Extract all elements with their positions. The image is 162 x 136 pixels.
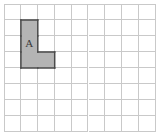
- grid-cell: [38, 4, 55, 20]
- grid-cell: [72, 84, 89, 100]
- grid-cell: [72, 4, 89, 20]
- grid-cell: [139, 20, 156, 36]
- grid-cell: [21, 116, 38, 132]
- shape-unit-square: [21, 52, 38, 68]
- grid-cell: [105, 20, 122, 36]
- grid-cell: [105, 36, 122, 52]
- grid-cell: [4, 116, 21, 132]
- grid-cell: [139, 36, 156, 52]
- grid-cell: [21, 68, 38, 84]
- grid-cell: [72, 100, 89, 116]
- grid-cell: [139, 84, 156, 100]
- grid-cell: [89, 84, 106, 100]
- grid-cell: [38, 36, 55, 52]
- grid-cell: [105, 84, 122, 100]
- grid-cell: [89, 68, 106, 84]
- grid-cell: [55, 52, 72, 68]
- grid-cell: [139, 52, 156, 68]
- grid-cell: [38, 84, 55, 100]
- grid-cell: [55, 68, 72, 84]
- grid-cell: [4, 20, 21, 36]
- grid-cell: [122, 100, 139, 116]
- shape-unit-square: [38, 52, 55, 68]
- grid-cell: [89, 4, 106, 20]
- grid-cell: [89, 116, 106, 132]
- grid-cell: [72, 36, 89, 52]
- grid-cell: [72, 20, 89, 36]
- grid-cell: [89, 36, 106, 52]
- grid-cell: [139, 4, 156, 20]
- grid-cell: [139, 68, 156, 84]
- grid-cell: [122, 68, 139, 84]
- grid-cell: [38, 116, 55, 132]
- grid-cell: [38, 68, 55, 84]
- grid-cell: [38, 100, 55, 116]
- grid-cell: [139, 116, 156, 132]
- grid-cell: [55, 100, 72, 116]
- grid-cell: [55, 36, 72, 52]
- grid-cell: [21, 4, 38, 20]
- grid-cell: [4, 52, 21, 68]
- grid-cell: [72, 52, 89, 68]
- grid-cell: [139, 100, 156, 116]
- grid-cell: [89, 52, 106, 68]
- grid-cell: [89, 20, 106, 36]
- grid-cell: [105, 116, 122, 132]
- grid-cell: [122, 20, 139, 36]
- grid-surface: A: [4, 4, 156, 132]
- grid-cell: [122, 36, 139, 52]
- grid-cell: [122, 116, 139, 132]
- grid-cell: [38, 20, 55, 36]
- grid-cell: [72, 116, 89, 132]
- shape-label: A: [21, 38, 38, 49]
- grid-cell: [4, 4, 21, 20]
- grid-cell: [21, 100, 38, 116]
- grid-cell: [4, 36, 21, 52]
- grid-cell: [105, 52, 122, 68]
- grid-cell: [55, 20, 72, 36]
- grid-cell: [21, 84, 38, 100]
- shape-unit-square: [21, 20, 38, 36]
- grid-cell: [4, 100, 21, 116]
- grid-cell: [122, 52, 139, 68]
- grid-cell: [55, 84, 72, 100]
- grid-cell: [89, 100, 106, 116]
- grid-cell: [55, 116, 72, 132]
- grid-cell: [55, 4, 72, 20]
- grid-cell: [105, 100, 122, 116]
- grid-cell: [4, 84, 21, 100]
- grid-cell: [122, 4, 139, 20]
- grid-figure: A: [0, 0, 162, 136]
- grid-cell: [105, 4, 122, 20]
- grid-cell: [105, 68, 122, 84]
- grid-cell: [72, 68, 89, 84]
- grid-cell: [4, 68, 21, 84]
- grid-cell: [122, 84, 139, 100]
